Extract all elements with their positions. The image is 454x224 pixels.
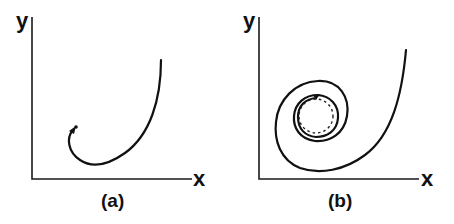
panel-a-endpoint <box>74 125 78 129</box>
panel-a-y-label: y <box>16 10 28 32</box>
panel-a-axes <box>32 17 192 179</box>
panel-b-caption: (b) <box>328 191 352 210</box>
panel-a-x-label: x <box>193 168 205 190</box>
panel-a-trajectory <box>69 60 161 164</box>
panel-b-x-label: x <box>421 168 433 190</box>
panel-b-y-label: y <box>243 10 255 32</box>
panel-b <box>259 17 419 179</box>
phase-diagrams <box>0 0 454 224</box>
panel-a <box>32 17 192 179</box>
panel-b-trajectory <box>276 50 406 171</box>
panel-b-limit-cycle <box>299 99 333 133</box>
panel-a-caption: (a) <box>101 191 124 210</box>
